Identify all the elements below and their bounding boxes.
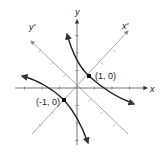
y-prime-axis-tick [88, 99, 90, 101]
x-prime-axis-tick [101, 62, 103, 64]
y-prime-axis-tick [51, 62, 53, 64]
point-label-neg1-0: (-1, 0) [36, 97, 60, 107]
hyperbola-diagram: x y x' y' (1, 0) (-1, 0) [0, 0, 161, 156]
x-prime-axis-tick [113, 50, 115, 52]
vertex-point-neg1-0 [62, 98, 66, 102]
y-axis-label: y [74, 7, 80, 17]
x-prime-axis [32, 31, 128, 134]
y-axis [76, 20, 79, 145]
y-prime-axis-label: y' [28, 22, 36, 32]
x-axis-label: x [149, 84, 155, 94]
y-prime-axis-tick [113, 124, 115, 126]
x-prime-axis-label: x' [121, 21, 129, 31]
vertex-point-1-0 [87, 74, 91, 78]
y-prime-axis-tick [101, 112, 103, 114]
point-label-1-0: (1, 0) [95, 71, 116, 81]
y-prime-axis-tick [63, 74, 65, 76]
